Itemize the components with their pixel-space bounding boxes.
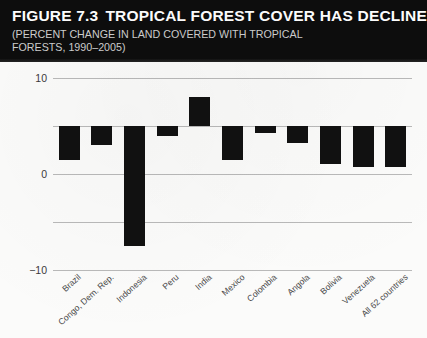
- gridline: −30: [53, 270, 412, 271]
- bar: [222, 126, 243, 160]
- figure-subtitle: (PERCENT CHANGE IN LAND COVERED WITH TRO…: [12, 28, 352, 53]
- x-axis-labels: BrazilCongo, Dem. Rep.IndonesiaPeruIndia…: [53, 272, 412, 338]
- x-axis-tick-label: Mexico: [219, 272, 246, 298]
- y-axis-tick-label: 0: [41, 168, 47, 180]
- x-axis-tick-label: Angola: [285, 272, 312, 297]
- bar: [157, 126, 178, 136]
- bar: [189, 97, 210, 126]
- figure-header: FIGURE 7.3TROPICAL FOREST COVER HAS DECL…: [0, 0, 427, 62]
- x-axis-tick-label: India: [193, 272, 214, 292]
- x-axis-tick-label: Indonesia: [114, 272, 148, 304]
- figure-container: FIGURE 7.3TROPICAL FOREST COVER HAS DECL…: [0, 0, 427, 338]
- x-axis-tick-label: Brazil: [60, 272, 83, 294]
- bar: [59, 126, 80, 160]
- bar: [124, 126, 145, 246]
- bar: [320, 126, 341, 164]
- figure-title-text: TROPICAL FOREST COVER HAS DECLINED: [105, 7, 427, 24]
- figure-number: FIGURE 7.3: [12, 7, 98, 24]
- bar: [287, 126, 308, 143]
- y-axis-tick-label: −10: [29, 264, 47, 276]
- bar: [255, 126, 276, 133]
- page-title: FIGURE 7.3TROPICAL FOREST COVER HAS DECL…: [12, 6, 417, 25]
- x-axis-tick-label: Peru: [161, 272, 181, 292]
- x-axis-tick-label: Bolivia: [319, 272, 345, 296]
- x-axis-tick-label: Colombia: [245, 272, 279, 304]
- y-axis-tick-label: 10: [35, 72, 47, 84]
- plot-area: 100−10−20−30: [53, 78, 412, 270]
- bar: [91, 126, 112, 145]
- bar: [385, 126, 406, 167]
- bars-group: [53, 78, 412, 270]
- bar: [353, 126, 374, 167]
